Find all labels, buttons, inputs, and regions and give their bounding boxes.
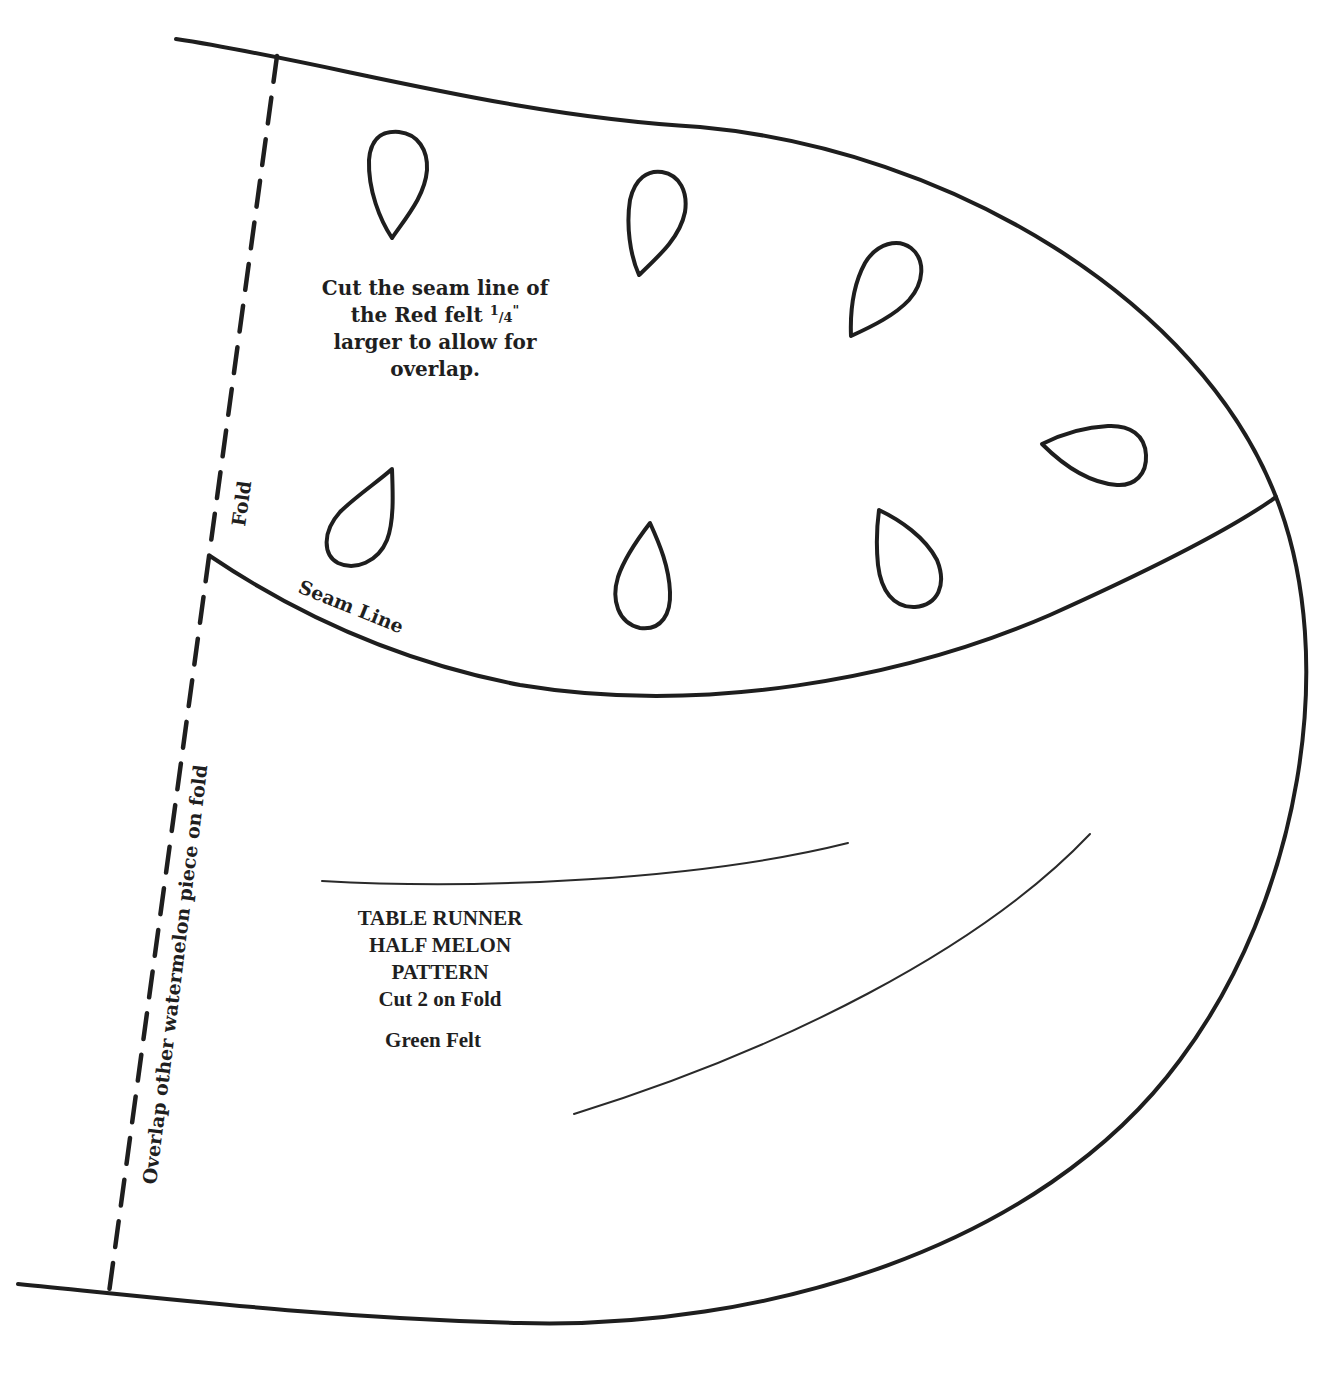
seam-line — [210, 497, 1276, 696]
fold-line — [108, 56, 277, 1300]
material-label: Green Felt — [385, 1028, 481, 1052]
seed-2 — [628, 172, 685, 275]
red-note-line-2: the Red felt 1/4" — [351, 303, 520, 327]
seed-1 — [369, 132, 427, 238]
seed-6 — [615, 523, 670, 628]
red-note-line-4: overlap. — [390, 357, 480, 381]
overlap-fold-label: Overlap other watermelon piece on fold — [138, 763, 211, 1185]
seed-3 — [851, 243, 921, 336]
red-felt-note: Cut the seam line of the Red felt 1/4" l… — [322, 276, 550, 381]
seed-7 — [877, 510, 941, 607]
title-line-3: PATTERN — [391, 960, 488, 984]
seed-5 — [327, 469, 393, 566]
seed-4 — [1042, 426, 1146, 485]
seam-line-label: Seam Line — [296, 575, 407, 637]
melon-outer-outline — [18, 39, 1306, 1323]
red-note-line-3: larger to allow for — [334, 330, 537, 354]
rind-curve-lower — [574, 834, 1090, 1114]
title-line-2: HALF MELON — [369, 933, 511, 957]
title-line-1: TABLE RUNNER — [358, 906, 524, 930]
watermelon-pattern-diagram: Cut the seam line of the Red felt 1/4" l… — [0, 0, 1329, 1375]
title-line-4: Cut 2 on Fold — [378, 987, 501, 1011]
red-note-line-1: Cut the seam line of — [322, 276, 550, 300]
fold-label: Fold — [227, 479, 255, 527]
pattern-title-block: TABLE RUNNER HALF MELON PATTERN Cut 2 on… — [358, 906, 524, 1052]
rind-curve-upper — [322, 843, 848, 884]
